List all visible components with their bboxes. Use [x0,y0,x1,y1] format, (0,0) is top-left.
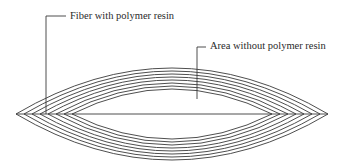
fiber-layers-top [16,68,328,114]
area-label: Area without polymer resin [210,40,326,51]
fiber-leader-line [46,16,66,114]
fiber-label: Fiber with polymer resin [70,10,174,21]
fiber-layers-bottom [16,114,328,160]
lens-diagram [0,0,345,166]
